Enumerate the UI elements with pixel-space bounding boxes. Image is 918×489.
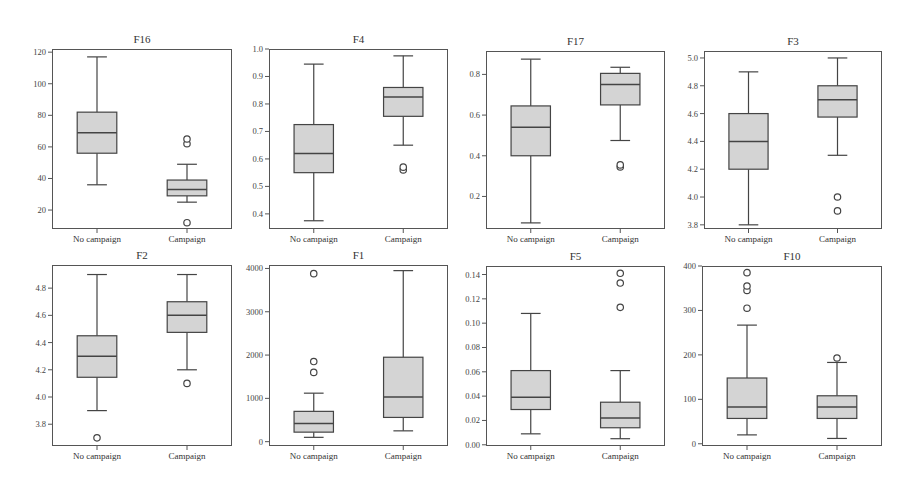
box-no-campaign: [294, 411, 333, 432]
y-tick-label: 4.0: [12, 392, 46, 402]
plot-area: [269, 49, 448, 229]
outlier-point: [834, 194, 840, 200]
y-tick-label: 0.10: [446, 318, 480, 328]
y-tick-label: 0.08: [446, 342, 480, 352]
box-no-campaign: [511, 371, 550, 410]
outlier-point: [184, 380, 190, 386]
plot-area: [486, 266, 665, 446]
outlier-point: [311, 369, 317, 375]
y-tick-label: 4.0: [664, 192, 698, 202]
box-no-campaign: [511, 106, 550, 156]
y-tick-label: 300: [662, 305, 696, 315]
y-tick-label: 0.4: [446, 151, 480, 161]
box-campaign: [818, 86, 857, 117]
y-tick-label: 0.4: [229, 209, 263, 219]
y-tick-label: 2000: [229, 350, 263, 360]
y-tick-label: 0.04: [446, 391, 480, 401]
box-campaign: [384, 87, 423, 116]
x-tick-label: No campaign: [290, 234, 338, 244]
y-tick-label: 120: [12, 47, 46, 57]
outlier-point: [617, 304, 623, 310]
y-tick-label: 0: [229, 437, 263, 447]
outlier-point: [617, 270, 623, 276]
y-tick-label: 200: [662, 350, 696, 360]
y-tick-label: 0.2: [446, 191, 480, 201]
y-tick-label: 0.8: [229, 99, 263, 109]
subplot-title: F17: [486, 35, 665, 47]
outlier-point: [400, 164, 406, 170]
subplot-title: F2: [52, 249, 232, 261]
y-tick-label: 20: [12, 205, 46, 215]
x-tick-label: Campaign: [385, 234, 422, 244]
box-campaign: [167, 180, 207, 196]
box-campaign: [601, 402, 640, 428]
y-tick-label: 0.5: [229, 181, 263, 191]
y-tick-label: 0.9: [229, 71, 263, 81]
subplot-title: F1: [269, 249, 448, 261]
y-tick-label: 1000: [229, 393, 263, 403]
subplot-f17: F170.20.40.60.8No campaignCampaign: [486, 51, 665, 229]
outlier-point: [744, 269, 750, 275]
plot-area: [704, 51, 882, 229]
y-tick-label: 4.2: [664, 164, 698, 174]
y-tick-label: 0.00: [446, 440, 480, 450]
x-tick-label: Campaign: [169, 451, 206, 461]
subplot-f3: F33.84.04.24.44.64.85.0No campaignCampai…: [704, 51, 882, 229]
outlier-point: [311, 358, 317, 364]
plot-area: [52, 49, 232, 229]
y-tick-label: 0.7: [229, 126, 263, 136]
subplot-f4: F40.40.50.60.70.80.91.0No campaignCampai…: [269, 49, 448, 229]
y-tick-label: 1.0: [229, 44, 263, 54]
y-tick-label: 0.02: [446, 415, 480, 425]
x-tick-label: No campaign: [724, 234, 772, 244]
x-tick-label: No campaign: [507, 234, 555, 244]
plot-area: [269, 265, 448, 446]
outlier-point: [744, 283, 750, 289]
y-tick-label: 3000: [229, 307, 263, 317]
y-tick-label: 60: [12, 142, 46, 152]
subplot-f16: F1620406080100120No campaignCampaign: [52, 49, 232, 229]
subplot-title: F5: [486, 250, 665, 262]
x-tick-label: No campaign: [73, 451, 121, 461]
plot-area: [486, 51, 665, 229]
outlier-point: [617, 280, 623, 286]
y-tick-label: 0.6: [229, 154, 263, 164]
box-no-campaign: [727, 378, 767, 418]
y-tick-label: 80: [12, 110, 46, 120]
subplot-f2: F23.84.04.24.44.64.8No campaignCampaign: [52, 265, 232, 446]
y-tick-label: 40: [12, 173, 46, 183]
y-tick-label: 5.0: [664, 53, 698, 63]
x-tick-label: No campaign: [507, 451, 555, 461]
outlier-point: [184, 219, 190, 225]
y-tick-label: 0.6: [446, 110, 480, 120]
outlier-point: [617, 162, 623, 168]
box-campaign: [384, 357, 423, 417]
y-tick-label: 0.12: [446, 294, 480, 304]
y-tick-label: 0.14: [446, 270, 480, 280]
y-tick-label: 4.6: [664, 109, 698, 119]
subplot-title: F16: [52, 33, 232, 45]
plot-area: [702, 266, 882, 446]
outlier-point: [744, 305, 750, 311]
x-tick-label: Campaign: [819, 451, 856, 461]
subplot-f5: F50.000.020.040.060.080.100.120.14No cam…: [486, 266, 665, 446]
plot-area: [52, 265, 232, 446]
outlier-point: [184, 136, 190, 142]
y-tick-label: 100: [12, 79, 46, 89]
x-tick-label: Campaign: [169, 234, 206, 244]
y-tick-label: 4.6: [12, 310, 46, 320]
subplot-f1: F101000200030004000No campaignCampaign: [269, 265, 448, 446]
x-tick-label: No campaign: [723, 451, 771, 461]
subplot-title: F4: [269, 33, 448, 45]
x-tick-label: Campaign: [819, 234, 856, 244]
y-tick-label: 4.2: [12, 365, 46, 375]
box-no-campaign: [294, 125, 333, 173]
x-tick-label: Campaign: [602, 451, 639, 461]
subplot-title: F3: [704, 35, 882, 47]
subplot-title: F10: [702, 250, 882, 262]
x-tick-label: No campaign: [290, 451, 338, 461]
box-campaign: [601, 73, 640, 105]
y-tick-label: 0.06: [446, 367, 480, 377]
outlier-point: [834, 355, 840, 361]
outlier-point: [834, 208, 840, 214]
